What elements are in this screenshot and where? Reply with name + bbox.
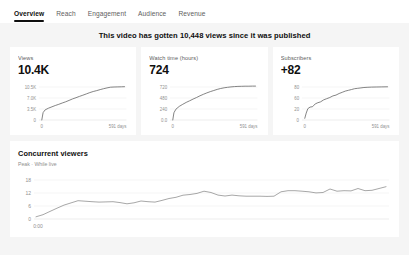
concurrent-viewers-subtitle: Peak · While live bbox=[18, 160, 391, 168]
metric-card-views[interactable]: Views 10.4K 10.5K 7.0K 3.5K 0 0 591 days bbox=[10, 47, 136, 135]
metric-value-subscribers: +82 bbox=[281, 63, 391, 78]
tab-revenue[interactable]: Revenue bbox=[178, 9, 205, 22]
concurrent-viewers-panel: Concurrent viewers Peak · While live 18 … bbox=[10, 141, 399, 237]
chart-subscribers-ytick-0: 0 bbox=[296, 118, 299, 123]
tab-audience[interactable]: Audience bbox=[138, 9, 166, 22]
chart-watch-time-ytick-0: 0.0 bbox=[161, 118, 168, 123]
chart-subscribers-xtick-start: 0 bbox=[303, 124, 306, 129]
chart-watch-time-svg: 720 480 240 0.0 0 591 days bbox=[149, 82, 259, 130]
chart-watch-time-ytick-3: 720 bbox=[160, 85, 168, 90]
analytics-tab-bar: Overview Reach Engagement Audience Reven… bbox=[0, 0, 409, 23]
metric-card-subscribers[interactable]: Subscribers +82 80 60 20 0 0 591 days bbox=[273, 47, 399, 135]
chart-subscribers-ytick-1: 20 bbox=[294, 107, 299, 112]
chart-subscribers-svg: 80 60 20 0 0 591 days bbox=[281, 82, 391, 130]
metric-label-views: Views bbox=[18, 54, 128, 62]
chart-watch-time-xtick-end: 591 days bbox=[240, 124, 258, 129]
chart-watch-time-ytick-1: 240 bbox=[160, 107, 168, 112]
chart-views-xtick-start: 0 bbox=[41, 124, 44, 129]
chart-concurrent-ytick-0: 0 bbox=[28, 216, 31, 222]
tab-overview[interactable]: Overview bbox=[14, 9, 44, 22]
tab-reach[interactable]: Reach bbox=[56, 9, 76, 22]
concurrent-viewers-title: Concurrent viewers bbox=[18, 149, 391, 159]
chart-subscribers-xtick-end: 591 days bbox=[371, 124, 389, 129]
metric-value-views: 10.4K bbox=[18, 63, 128, 78]
tab-engagement[interactable]: Engagement bbox=[88, 9, 126, 22]
metric-card-watch-time[interactable]: Watch time (hours) 724 720 480 240 0.0 0… bbox=[141, 47, 267, 135]
chart-views-ytick-1: 3.5K bbox=[27, 107, 36, 112]
chart-concurrent-ytick-2: 12 bbox=[25, 190, 31, 196]
metric-label-watch-time: Watch time (hours) bbox=[149, 54, 259, 62]
headline-section: This video has gotten 10,448 views since… bbox=[0, 23, 409, 47]
metric-label-subscribers: Subscribers bbox=[281, 54, 391, 62]
chart-views-ytick-3: 10.5K bbox=[25, 85, 36, 90]
chart-concurrent-ytick-1: 6 bbox=[28, 203, 31, 209]
chart-concurrent-xtick-start: 0:00 bbox=[33, 223, 43, 229]
metric-value-watch-time: 724 bbox=[149, 63, 259, 78]
chart-subscribers-ytick-2: 60 bbox=[294, 96, 299, 101]
chart-watch-time-ytick-2: 480 bbox=[160, 96, 168, 101]
chart-subscribers-ytick-3: 80 bbox=[294, 85, 299, 90]
chart-concurrent-ytick-3: 18 bbox=[25, 177, 31, 183]
chart-views-svg: 10.5K 7.0K 3.5K 0 0 591 days bbox=[18, 82, 128, 130]
chart-watch-time-xtick-start: 0 bbox=[172, 124, 175, 129]
chart-views: 10.5K 7.0K 3.5K 0 0 591 days bbox=[18, 82, 128, 130]
chart-views-xtick-end: 591 days bbox=[109, 124, 127, 129]
chart-concurrent-viewers-svg: 18 12 6 0 0:00 bbox=[18, 173, 391, 231]
chart-watch-time: 720 480 240 0.0 0 591 days bbox=[149, 82, 259, 130]
metric-card-row: Views 10.4K 10.5K 7.0K 3.5K 0 0 591 days… bbox=[0, 47, 409, 135]
headline-text: This video has gotten 10,448 views since… bbox=[0, 31, 409, 40]
chart-subscribers: 80 60 20 0 0 591 days bbox=[281, 82, 391, 130]
chart-views-ytick-2: 7.0K bbox=[27, 96, 36, 101]
chart-concurrent-viewers: 18 12 6 0 0:00 bbox=[18, 173, 391, 231]
chart-views-ytick-0: 0 bbox=[34, 118, 37, 123]
